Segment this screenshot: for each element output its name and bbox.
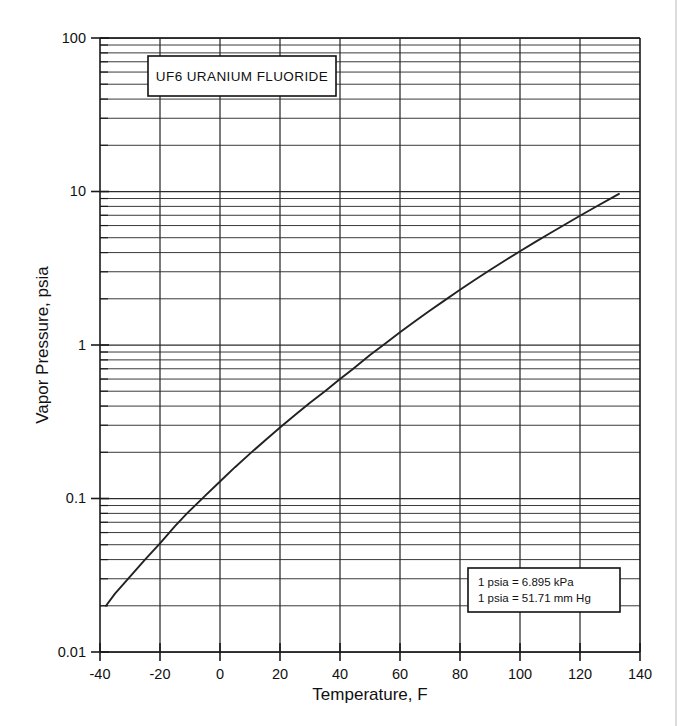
x-tick-label: 80 xyxy=(452,666,468,682)
y-tick-label: 1 xyxy=(78,337,86,353)
vapor-pressure-curve xyxy=(106,194,619,606)
x-tick-label: -40 xyxy=(90,666,111,682)
x-tick-label: -20 xyxy=(150,666,171,682)
y-tick-labels: 0.010.1110100 xyxy=(58,30,86,660)
vapor-pressure-chart-figure: 0.010.1110100 -40-20020406080100120140 T… xyxy=(0,0,685,726)
x-axis-title: Temperature, F xyxy=(312,685,427,704)
note-line-2: 1 psia = 51.71 mm Hg xyxy=(478,592,591,604)
y-axis-title: Vapor Pressure, psia xyxy=(33,266,52,424)
y-tick-label: 0.01 xyxy=(58,644,86,660)
title-box-label: UF6 URANIUM FLUORIDE xyxy=(156,69,328,84)
chart-canvas: 0.010.1110100 -40-20020406080100120140 T… xyxy=(0,0,685,726)
y-tick-label: 0.1 xyxy=(66,490,86,506)
x-tick-label: 140 xyxy=(628,666,652,682)
x-tick-label: 120 xyxy=(568,666,592,682)
conversion-note-box: 1 psia = 6.895 kPa 1 psia = 51.71 mm Hg xyxy=(468,568,620,612)
x-tick-label: 100 xyxy=(508,666,532,682)
note-box-frame xyxy=(468,568,620,612)
y-minor-gridlines xyxy=(100,45,640,606)
x-tick-label: 40 xyxy=(332,666,348,682)
note-line-1: 1 psia = 6.895 kPa xyxy=(478,576,574,588)
x-tick-label: 20 xyxy=(272,666,288,682)
y-tick-label: 100 xyxy=(62,30,86,46)
x-tick-label: 0 xyxy=(216,666,224,682)
x-tick-labels: -40-20020406080100120140 xyxy=(90,666,653,682)
title-annotation-box: UF6 URANIUM FLUORIDE xyxy=(148,56,336,96)
x-tick-label: 60 xyxy=(392,666,408,682)
y-tick-label: 10 xyxy=(70,183,86,199)
